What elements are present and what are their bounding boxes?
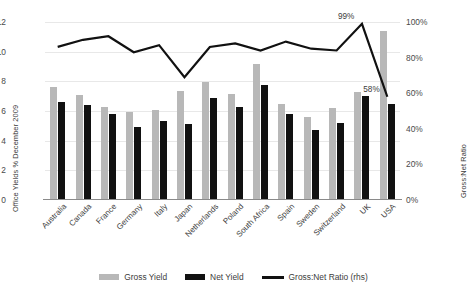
y-tick-left-4: 4 <box>1 137 6 145</box>
legend-label: Gross Yield <box>124 272 167 282</box>
y-tick-left-6: 6 <box>1 107 6 115</box>
x-label-poland: Poland <box>222 202 246 226</box>
plot-area: 99%58% <box>45 22 400 200</box>
legend-item[interactable]: Gross:Net Ratio (rhs) <box>262 272 368 282</box>
x-label-germany: Germany <box>114 202 144 232</box>
legend-label: Gross:Net Ratio (rhs) <box>289 272 368 282</box>
y-tick-right-60pct: 60% <box>406 89 423 97</box>
x-axis-category-labels: AustraliaCanadaFranceGermanyItalyJapanNe… <box>45 202 400 260</box>
legend-swatch-line-icon <box>262 276 284 279</box>
y-tick-right-80pct: 80% <box>406 54 423 62</box>
legend-swatch-bar-icon <box>185 274 205 280</box>
legend-swatch-bar-icon <box>99 274 119 280</box>
y-axis-right-title: Gross:Net Ratio <box>459 144 467 198</box>
y-tick-right-40pct: 40% <box>406 125 423 133</box>
chart-legend: Gross YieldNet YieldGross:Net Ratio (rhs… <box>0 272 467 282</box>
x-label-australia: Australia <box>40 202 68 230</box>
y-tick-left-10: 10 <box>0 48 6 56</box>
data-label-58pct: 58% <box>363 85 379 94</box>
y-tick-left-12: 12 <box>0 18 6 26</box>
data-label-99pct: 99% <box>338 12 354 21</box>
y-tick-left-8: 8 <box>1 77 6 85</box>
x-label-france: France <box>95 202 119 226</box>
x-label-spain: Spain <box>275 202 296 223</box>
y-tick-right-20pct: 20% <box>406 160 423 168</box>
x-axis-baseline <box>43 199 402 200</box>
x-label-usa: USA <box>380 202 398 220</box>
x-label-italy: Italy <box>153 202 170 219</box>
y-tick-left-0: 0 <box>1 196 6 204</box>
y-tick-right-0pct: 0% <box>406 196 418 204</box>
x-label-uk: UK <box>358 202 372 216</box>
legend-item[interactable]: Net Yield <box>185 272 244 282</box>
legend-label: Net Yield <box>210 272 244 282</box>
y-tick-right-100pct: 100% <box>406 18 427 26</box>
y-tick-left-2: 2 <box>1 166 6 174</box>
legend-item[interactable]: Gross Yield <box>99 272 167 282</box>
x-label-japan: Japan <box>173 202 195 224</box>
y-axis-left-title: Office Yields % December 2009 <box>11 105 20 212</box>
office-yields-chart: Office Yields % December 2009 Gross:Net … <box>0 0 467 296</box>
x-label-canada: Canada <box>67 202 93 228</box>
ratio-line-series <box>45 22 400 200</box>
